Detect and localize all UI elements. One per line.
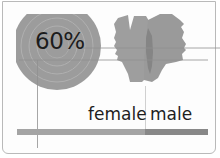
label-male: male — [150, 106, 192, 123]
bar-segment-female — [17, 129, 145, 135]
bar-segment-male — [145, 129, 208, 135]
headline-percentage: 60% — [35, 30, 85, 53]
label-female: female — [88, 106, 147, 123]
infographic-art — [0, 0, 220, 158]
split-bar — [17, 129, 208, 135]
